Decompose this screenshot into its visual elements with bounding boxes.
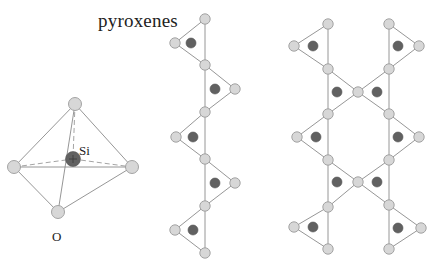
oxygen-atom <box>171 132 181 142</box>
bond-line <box>205 183 235 206</box>
oxygen-atom <box>200 14 210 24</box>
bond-line <box>328 182 358 207</box>
bond-line <box>328 69 358 92</box>
oxygen-atom <box>292 132 302 142</box>
oxygen-atom <box>170 38 180 48</box>
bond-line <box>389 205 421 228</box>
silicon-atom <box>372 87 382 97</box>
oxygen-atom <box>289 41 299 51</box>
silicon-atom <box>210 84 220 94</box>
oxygen-atom <box>414 41 424 51</box>
silicon-atom <box>393 41 403 51</box>
oxygen-atom <box>200 60 210 70</box>
silicon-atom <box>186 38 196 48</box>
oxygen-atom <box>8 161 21 174</box>
silicon-atom <box>332 87 342 97</box>
oxygen-atom <box>323 19 333 29</box>
silicon-atom <box>311 132 321 142</box>
oxygen-atom <box>323 202 333 212</box>
oxygen-atom <box>200 107 210 117</box>
oxygen-atom <box>384 64 394 74</box>
bond-line <box>14 167 58 212</box>
oxygen-atom <box>200 201 210 211</box>
silicon-atom <box>188 132 198 142</box>
oxygen-atom <box>200 154 210 164</box>
silicon-atom <box>308 222 318 232</box>
oxygen-atom <box>353 87 363 97</box>
oxygen-atom <box>384 109 394 119</box>
silicon-atom <box>393 132 403 142</box>
bond-line <box>205 65 235 89</box>
oxygen-atom <box>384 19 394 29</box>
bond-line <box>205 89 235 112</box>
silicon-atom <box>372 177 382 187</box>
bond-line <box>58 167 132 212</box>
sio4-tetrahedron <box>8 98 139 219</box>
dashed-bond <box>14 159 73 167</box>
figure-title: pyroxenes <box>98 10 178 32</box>
silicon-atom <box>308 41 318 51</box>
single-chain <box>170 14 240 258</box>
silicon-atom <box>210 178 220 188</box>
oxygen-atom <box>353 177 363 187</box>
oxygen-atom <box>126 161 139 174</box>
bond-line <box>205 159 235 183</box>
oxygen-atom <box>52 206 65 219</box>
oxygen-atom <box>414 132 424 142</box>
oxygen-atom <box>200 248 210 258</box>
silicate-diagram: pyroxenes Si O <box>0 0 436 269</box>
oxygen-atom <box>230 84 240 94</box>
oxygen-atom <box>69 98 82 111</box>
double-chain <box>289 19 426 254</box>
bond-line <box>389 137 419 160</box>
oxygen-atom <box>170 225 180 235</box>
oxygen-atom <box>323 155 333 165</box>
oxygen-atom <box>323 109 333 119</box>
diagram-canvas <box>0 0 436 269</box>
oxygen-atom <box>384 244 394 254</box>
oxygen-label: O <box>52 229 61 245</box>
bond-line <box>389 114 419 137</box>
silicon-atom <box>393 223 403 233</box>
silicon-atom <box>188 225 198 235</box>
oxygen-atom <box>416 223 426 233</box>
oxygen-atom <box>323 244 333 254</box>
dashed-bond <box>73 159 132 167</box>
silicon-atom <box>332 177 342 187</box>
oxygen-atom <box>323 64 333 74</box>
oxygen-atom <box>289 222 299 232</box>
silicon-label: Si <box>79 143 90 159</box>
bond-line <box>389 46 419 69</box>
oxygen-atom <box>384 155 394 165</box>
oxygen-atom <box>384 200 394 210</box>
oxygen-atom <box>230 178 240 188</box>
